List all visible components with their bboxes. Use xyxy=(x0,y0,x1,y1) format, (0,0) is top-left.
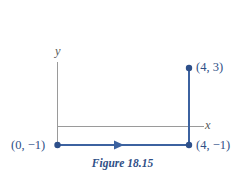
point-marker-bottom-right xyxy=(186,142,192,148)
figure-caption: Figure 18.15 xyxy=(0,158,245,170)
point-marker-bottom-left xyxy=(54,142,60,148)
point-marker-top-right xyxy=(186,65,192,71)
figure-container: y x (4, 3) (4, −1) (0, −1) Figure 18.15 xyxy=(0,0,245,178)
axis-label-x: x xyxy=(205,119,211,132)
point-label-bottom-right: (4, −1) xyxy=(196,139,230,152)
axis-label-y: y xyxy=(55,45,61,58)
point-label-bottom-left: (0, −1) xyxy=(11,139,45,152)
point-label-top-right: (4, 3) xyxy=(196,61,223,74)
direction-arrow-icon xyxy=(114,141,124,150)
